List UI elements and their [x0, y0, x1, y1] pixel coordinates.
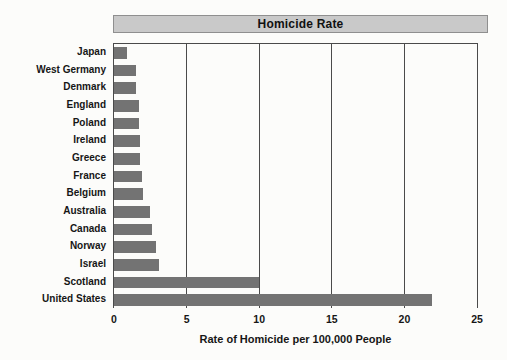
bar-france	[114, 171, 142, 183]
x-tick-label-25: 25	[471, 313, 483, 325]
category-label-belgium: Belgium	[0, 187, 106, 199]
category-label-australia: Australia	[0, 205, 106, 217]
chart-title-band: Homicide Rate	[113, 15, 488, 33]
bar-scotland	[114, 277, 259, 289]
category-label-scotland: Scotland	[0, 276, 106, 288]
category-label-poland: Poland	[0, 117, 106, 129]
gridline-20	[404, 44, 405, 308]
x-tick-label-10: 10	[253, 313, 265, 325]
x-tick-label-20: 20	[399, 313, 411, 325]
gridline-5	[186, 44, 187, 308]
bar-japan	[114, 47, 127, 59]
x-tick-label-15: 15	[326, 313, 338, 325]
bar-ireland	[114, 135, 140, 147]
category-label-west-germany: West Germany	[0, 64, 106, 76]
category-label-japan: Japan	[0, 46, 106, 58]
chart-title: Homicide Rate	[258, 17, 344, 31]
category-label-france: France	[0, 170, 106, 182]
category-label-canada: Canada	[0, 223, 106, 235]
category-label-norway: Norway	[0, 240, 106, 252]
gridline-10	[259, 44, 260, 308]
homicide-rate-bar-chart: Homicide Rate JapanWest GermanyDenmarkEn…	[0, 0, 507, 360]
gridline-15	[331, 44, 332, 308]
bar-denmark	[114, 82, 136, 94]
bar-poland	[114, 118, 139, 130]
bar-australia	[114, 206, 150, 218]
bar-israel	[114, 259, 159, 271]
bar-west-germany	[114, 65, 136, 77]
bar-greece	[114, 153, 140, 165]
category-label-united-states: United States	[0, 293, 106, 305]
category-label-ireland: Ireland	[0, 134, 106, 146]
x-tick-label-5: 5	[184, 313, 190, 325]
category-label-england: England	[0, 99, 106, 111]
category-label-denmark: Denmark	[0, 81, 106, 93]
bar-norway	[114, 241, 156, 253]
x-tick-label-0: 0	[111, 313, 117, 325]
bar-canada	[114, 224, 152, 236]
bar-england	[114, 100, 139, 112]
bar-united-states	[114, 294, 432, 306]
x-axis-title: Rate of Homicide per 100,000 People	[113, 333, 478, 345]
category-label-israel: Israel	[0, 258, 106, 270]
plot-area	[113, 43, 478, 308]
bar-belgium	[114, 188, 143, 200]
category-label-greece: Greece	[0, 152, 106, 164]
